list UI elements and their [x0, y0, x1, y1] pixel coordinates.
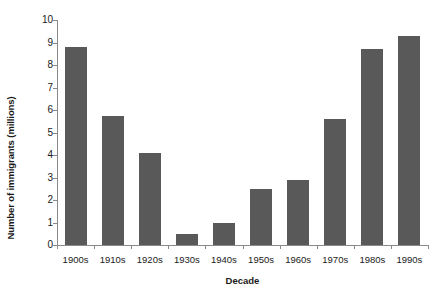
y-axis-tick-label: 9	[47, 38, 53, 48]
x-axis-tick-label: 1970s	[317, 254, 354, 265]
bar-1960s	[287, 180, 309, 245]
plot-area: 012345678910	[57, 20, 428, 245]
y-axis-tick-mark	[53, 20, 57, 21]
y-axis-tick-label: 4	[47, 150, 53, 160]
y-axis-tick-mark	[53, 223, 57, 224]
y-axis-tick-label: 2	[47, 195, 53, 205]
y-axis-tick-mark	[53, 178, 57, 179]
x-axis-tick-mark	[280, 245, 281, 249]
x-axis-tick-label: 1900s	[57, 254, 94, 265]
bar-chart-figure: Number of immigrants (millions) 01234567…	[0, 0, 435, 300]
x-axis-tick-mark	[131, 245, 132, 249]
y-axis-tick-mark	[53, 43, 57, 44]
y-axis-tick-label: 6	[47, 105, 53, 115]
y-axis-tick-label: 1	[47, 218, 53, 228]
x-axis-tick-mark	[243, 245, 244, 249]
x-axis-tick-mark	[354, 245, 355, 249]
x-axis-tick-label: 1920s	[131, 254, 168, 265]
bar-1970s	[324, 119, 346, 245]
x-axis-tick-mark	[94, 245, 95, 249]
y-axis-tick-mark	[53, 133, 57, 134]
bar-1980s	[361, 49, 383, 245]
x-axis-tick-label: 1930s	[168, 254, 205, 265]
x-axis-tick-mark	[391, 245, 392, 249]
x-axis-tick-label: 1980s	[354, 254, 391, 265]
y-axis-tick-mark	[53, 200, 57, 201]
y-axis-tick-label: 8	[47, 60, 53, 70]
x-axis-tick-mark	[168, 245, 169, 249]
y-axis-tick-label: 7	[47, 83, 53, 93]
y-axis-tick-mark	[53, 65, 57, 66]
y-axis-tick-mark	[53, 155, 57, 156]
x-axis-tick-label: 1990s	[391, 254, 428, 265]
y-axis-tick-label: 3	[47, 173, 53, 183]
y-axis-tick-mark	[53, 110, 57, 111]
y-axis-tick-label: 10	[42, 15, 53, 25]
bar-1900s	[65, 47, 87, 245]
x-axis-tick-label: 1910s	[94, 254, 131, 265]
x-axis-tick-label: 1960s	[280, 254, 317, 265]
x-axis-tick-label: 1950s	[243, 254, 280, 265]
bar-1910s	[102, 116, 124, 245]
x-axis-tick-mark	[205, 245, 206, 249]
y-axis-title: Number of immigrants (millions)	[1, 18, 19, 300]
y-axis-tick-label: 0	[47, 240, 53, 250]
x-axis-title: Decade	[57, 275, 428, 286]
y-axis-tick-mark	[53, 88, 57, 89]
y-axis-tick-label: 5	[47, 128, 53, 138]
bar-1950s	[250, 189, 272, 245]
bar-1940s	[213, 223, 235, 246]
bar-1990s	[398, 36, 420, 245]
x-axis-tick-mark	[57, 245, 58, 249]
bar-1930s	[176, 234, 198, 245]
x-axis-tick-mark	[428, 245, 429, 249]
bar-1920s	[139, 153, 161, 245]
x-axis-tick-mark	[317, 245, 318, 249]
x-axis-tick-label: 1940s	[205, 254, 242, 265]
